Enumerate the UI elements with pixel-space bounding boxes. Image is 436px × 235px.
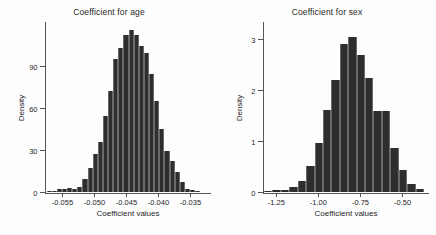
- histogram-bar: [298, 181, 306, 192]
- histogram-bar: [195, 191, 200, 192]
- y-axis-tick-label: 0: [33, 188, 40, 197]
- x-axis-tick-label: -0.040: [148, 198, 169, 207]
- y-axis-tick-label: 30: [29, 146, 40, 155]
- y-axis-tick: 3: [258, 39, 263, 40]
- x-axis-tick: -1.00: [318, 193, 319, 197]
- y-axis-label-age: Density: [17, 95, 26, 122]
- histogram-bar: [348, 37, 356, 192]
- plot-area-sex: [264, 24, 424, 192]
- x-axis-tick-label: -0.035: [180, 198, 201, 207]
- histogram-bars-sex: [264, 24, 424, 192]
- x-axis-tick-label: -0.055: [52, 198, 73, 207]
- panel-title-sex: Coefficient for sex: [218, 7, 436, 17]
- histogram-bar: [365, 78, 373, 192]
- y-axis-tick: 30: [40, 150, 45, 151]
- histogram-bar: [416, 189, 424, 192]
- histogram-bar: [382, 111, 390, 192]
- histogram-bar: [323, 110, 331, 192]
- histogram-bar: [399, 170, 407, 192]
- x-axis-tick: -0.050: [94, 193, 95, 197]
- histogram-bar: [315, 143, 323, 192]
- panel-coefficient-for-sex: Coefficient for sex 0123 -1.25-1.00-0.75…: [218, 0, 436, 235]
- histogram-bar: [340, 44, 348, 192]
- histogram-bar: [373, 111, 381, 192]
- x-axis-line-age: [45, 193, 211, 194]
- histogram-bar: [281, 190, 289, 192]
- y-axis-tick: 2: [258, 90, 263, 91]
- y-axis-tick: 60: [40, 108, 45, 109]
- x-axis-tick: -0.035: [190, 193, 191, 197]
- y-axis-tick: 90: [40, 66, 45, 67]
- histogram-bar: [390, 148, 398, 192]
- y-axis-label-sex: Density: [235, 95, 244, 122]
- x-axis-tick: -0.040: [158, 193, 159, 197]
- panel-coefficient-for-age: Coefficient for age 0306090 -0.055-0.050…: [0, 0, 218, 235]
- y-axis-tick: 1: [258, 141, 263, 142]
- x-axis-tick: -0.75: [360, 193, 361, 197]
- x-axis-tick-label: -0.050: [84, 198, 105, 207]
- histogram-bar: [272, 190, 280, 192]
- panel-title-age: Coefficient for age: [0, 7, 218, 17]
- x-axis-tick-label: -1.25: [268, 198, 285, 207]
- y-axis-tick-label: 0: [251, 188, 258, 197]
- histogram-bar: [289, 187, 297, 192]
- histogram-bar: [331, 80, 339, 192]
- histogram-bar: [407, 184, 415, 192]
- x-axis-line-sex: [263, 193, 429, 194]
- x-axis-tick: -0.50: [402, 193, 403, 197]
- x-axis-tick-label: -0.75: [352, 198, 369, 207]
- histogram-bar: [264, 191, 272, 192]
- y-axis-tick: 0: [40, 192, 45, 193]
- x-axis-label-age: Coefficient values: [45, 209, 211, 218]
- plot-area-age: [46, 24, 206, 192]
- x-axis-label-sex: Coefficient values: [263, 209, 429, 218]
- x-axis-tick-label: -0.50: [394, 198, 411, 207]
- x-axis-tick: -0.055: [62, 193, 63, 197]
- y-axis-tick-label: 2: [251, 86, 258, 95]
- histogram-bar: [357, 55, 365, 192]
- y-axis-tick-label: 60: [29, 104, 40, 113]
- y-axis-tick-label: 90: [29, 62, 40, 71]
- y-axis-tick: 0: [258, 192, 263, 193]
- y-axis-tick-label: 3: [251, 35, 258, 44]
- histogram-bar: [306, 166, 314, 192]
- histogram-figure: Coefficient for age 0306090 -0.055-0.050…: [0, 0, 436, 235]
- x-axis-tick: -0.045: [126, 193, 127, 197]
- x-axis-tick: -1.25: [276, 193, 277, 197]
- x-axis-tick-label: -0.045: [116, 198, 137, 207]
- x-axis-tick-label: -1.00: [310, 198, 327, 207]
- y-axis-tick-label: 1: [251, 137, 258, 146]
- histogram-bars-age: [46, 24, 206, 192]
